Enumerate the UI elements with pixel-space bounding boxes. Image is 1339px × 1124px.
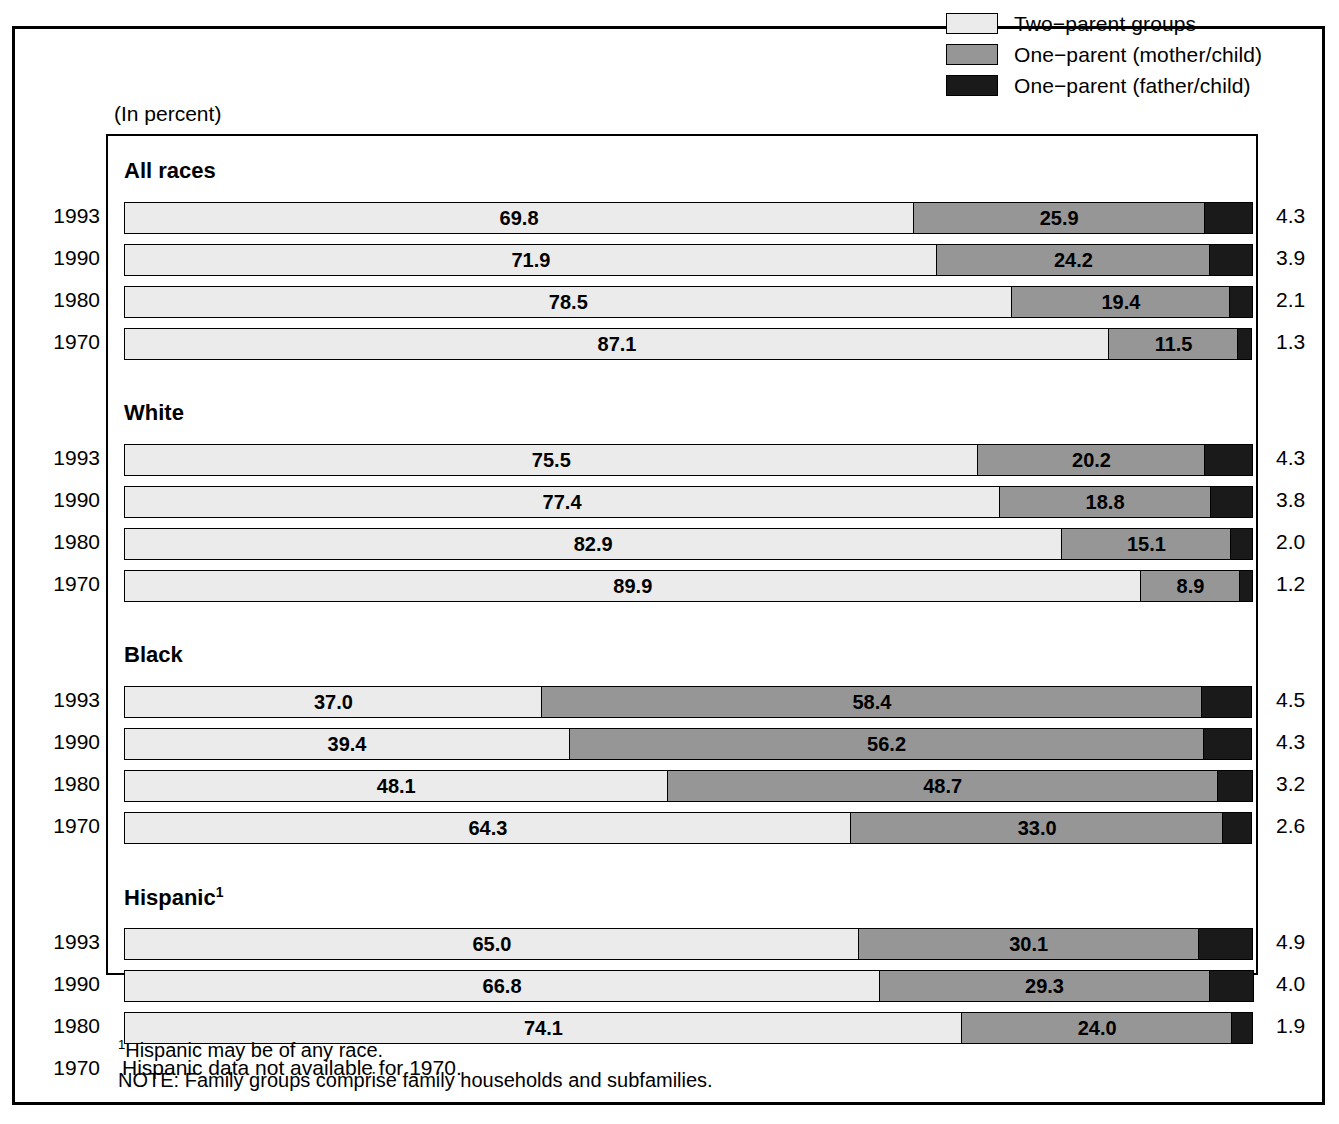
legend-item-two: Two−parent groups [946, 8, 1296, 39]
stacked-bar: 82.915.1 [124, 528, 1256, 560]
year-label-1970: 1970 [40, 330, 100, 354]
bar-segment-two: 89.9 [124, 570, 1142, 602]
bar-value-label-two: 71.9 [511, 249, 550, 272]
bar-value-label-mother: 29.3 [1025, 975, 1064, 998]
bar-row: 69.825.9 [108, 202, 1256, 234]
legend-swatch-two [946, 13, 998, 34]
bar-segment-father [1201, 686, 1252, 718]
year-label-1990: 1990 [40, 246, 100, 270]
father-value-1993: 4.3 [1276, 446, 1305, 470]
bar-segment-mother: 11.5 [1108, 328, 1238, 360]
stacked-bar: 39.456.2 [124, 728, 1256, 760]
bar-row: 48.148.7 [108, 770, 1256, 802]
year-label-1993: 1993 [40, 688, 100, 712]
bar-segment-two: 75.5 [124, 444, 979, 476]
bar-segment-two: 87.1 [124, 328, 1110, 360]
stacked-bar: 64.333.0 [124, 812, 1256, 844]
bar-row: 37.058.4 [108, 686, 1256, 718]
year-label-1980: 1980 [40, 288, 100, 312]
year-label-1970: 1970 [40, 1056, 100, 1080]
stacked-bar: 77.418.8 [124, 486, 1256, 518]
year-label-1993: 1993 [40, 930, 100, 954]
stacked-bar: 87.111.5 [124, 328, 1256, 360]
legend-item-father: One−parent (father/child) [946, 70, 1296, 101]
bar-row: 66.829.3 [108, 970, 1256, 1002]
bar-segment-two: 69.8 [124, 202, 914, 234]
group-title-black: Black [124, 642, 183, 668]
bar-row: 87.111.5 [108, 328, 1256, 360]
stacked-bar: 75.520.2 [124, 444, 1256, 476]
bar-row: 78.519.4 [108, 286, 1256, 318]
bar-row: 89.98.9 [108, 570, 1256, 602]
bar-value-label-mother: 58.4 [852, 691, 891, 714]
year-label-1980: 1980 [40, 1014, 100, 1038]
bar-row: 71.924.2 [108, 244, 1256, 276]
bar-segment-mother: 30.1 [858, 928, 1199, 960]
bar-segment-father [1210, 486, 1253, 518]
legend-swatch-mother [946, 44, 998, 65]
bar-row: 65.030.1 [108, 928, 1256, 960]
stacked-bar: 37.058.4 [124, 686, 1256, 718]
bar-segment-two: 65.0 [124, 928, 860, 960]
father-value-1990: 3.8 [1276, 488, 1305, 512]
bar-segment-father [1209, 970, 1254, 1002]
bar-value-label-mother: 18.8 [1086, 491, 1125, 514]
bar-segment-mother: 8.9 [1140, 570, 1241, 602]
bar-value-label-two: 65.0 [472, 933, 511, 956]
bar-segment-two: 77.4 [124, 486, 1000, 518]
father-value-1970: 1.3 [1276, 330, 1305, 354]
bar-value-label-two: 66.8 [483, 975, 522, 998]
bar-segment-mother: 15.1 [1061, 528, 1232, 560]
bar-value-label-mother: 48.7 [923, 775, 962, 798]
bar-value-label-mother: 19.4 [1101, 291, 1140, 314]
bar-segment-mother: 33.0 [850, 812, 1224, 844]
father-value-1980: 1.9 [1276, 1014, 1305, 1038]
bar-row: 82.915.1 [108, 528, 1256, 560]
year-label-1993: 1993 [40, 446, 100, 470]
bar-segment-mother: 56.2 [569, 728, 1205, 760]
legend-label-mother: One−parent (mother/child) [1014, 43, 1262, 67]
stacked-bar: 71.924.2 [124, 244, 1256, 276]
bar-segment-mother: 58.4 [541, 686, 1202, 718]
bar-segment-mother: 20.2 [977, 444, 1206, 476]
stacked-bar: 89.98.9 [124, 570, 1256, 602]
legend-item-mother: One−parent (mother/child) [946, 39, 1296, 70]
father-value-1980: 2.0 [1276, 530, 1305, 554]
bar-segment-two: 64.3 [124, 812, 852, 844]
bar-segment-father [1204, 202, 1253, 234]
bar-segment-mother: 24.0 [961, 1012, 1233, 1044]
plot-area: All races69.825.971.924.278.519.487.111.… [106, 134, 1258, 975]
bar-segment-mother: 18.8 [999, 486, 1212, 518]
year-label-1970: 1970 [40, 572, 100, 596]
bar-segment-two: 66.8 [124, 970, 880, 1002]
bar-value-label-two: 87.1 [598, 333, 637, 356]
year-label-1990: 1990 [40, 972, 100, 996]
bar-segment-father [1237, 328, 1252, 360]
bar-value-label-two: 75.5 [532, 449, 571, 472]
bar-value-label-two: 69.8 [500, 207, 539, 230]
bar-value-label-mother: 20.2 [1072, 449, 1111, 472]
year-label-1980: 1980 [40, 530, 100, 554]
bar-segment-father [1231, 1012, 1253, 1044]
bar-segment-father [1239, 570, 1253, 602]
father-value-1993: 4.5 [1276, 688, 1305, 712]
bar-value-label-two: 48.1 [377, 775, 416, 798]
bar-segment-mother: 24.2 [936, 244, 1210, 276]
bar-value-label-mother: 25.9 [1040, 207, 1079, 230]
units-label: (In percent) [114, 102, 221, 126]
bar-segment-father [1198, 928, 1253, 960]
father-value-1980: 2.1 [1276, 288, 1305, 312]
father-value-1993: 4.3 [1276, 204, 1305, 228]
father-value-1990: 4.0 [1276, 972, 1305, 996]
group-title-all-races: All races [124, 158, 216, 184]
bar-value-label-mother: 11.5 [1155, 333, 1193, 356]
group-title-white: White [124, 400, 184, 426]
bar-row: 77.418.8 [108, 486, 1256, 518]
year-label-1980: 1980 [40, 772, 100, 796]
bar-value-label-mother: 33.0 [1018, 817, 1057, 840]
bar-segment-father [1230, 528, 1253, 560]
bar-value-label-two: 78.5 [549, 291, 588, 314]
father-value-1993: 4.9 [1276, 930, 1305, 954]
bar-value-label-two: 37.0 [314, 691, 353, 714]
bar-row: 75.520.2 [108, 444, 1256, 476]
